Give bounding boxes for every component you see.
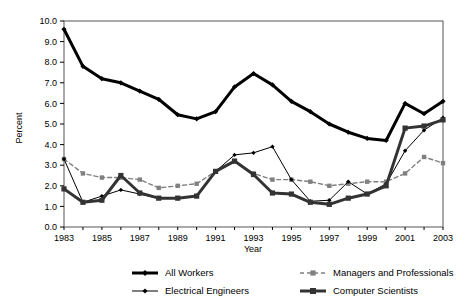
y-tick-label: 7.0 (44, 78, 57, 88)
data-point-marker (421, 123, 426, 128)
data-point-marker (156, 196, 161, 201)
x-tick-label: 1995 (281, 233, 301, 243)
legend-item[interactable]: Computer Scientists (300, 285, 418, 296)
data-point-marker (119, 188, 123, 192)
legend-label: Computer Scientists (333, 285, 418, 296)
y-tick-label: 4.0 (44, 140, 57, 150)
series-1 (61, 27, 445, 143)
data-point-marker (346, 196, 351, 201)
data-point-marker (251, 151, 255, 155)
data-point-marker (194, 194, 199, 199)
data-point-marker (176, 184, 180, 188)
data-point-marker (118, 173, 123, 178)
data-point-marker (61, 186, 66, 191)
y-tick-label: 1.0 (44, 202, 57, 212)
data-point-marker (310, 270, 315, 275)
data-point-marker (441, 161, 445, 165)
data-point-marker (157, 186, 161, 190)
y-tick-label: 3.0 (44, 160, 57, 170)
y-tick-label: 10.0 (39, 16, 57, 26)
y-tick-label: 2.0 (44, 181, 57, 191)
data-point-marker (310, 288, 316, 294)
data-point-marker (100, 175, 104, 179)
data-point-marker (251, 172, 256, 177)
x-tick-label: 1997 (319, 233, 339, 243)
x-tick-label: 1991 (206, 233, 226, 243)
data-point-marker (137, 190, 142, 195)
x-tick-label: 1985 (92, 233, 112, 243)
chart-container: 0.01.02.03.04.05.06.07.08.09.010.0 19831… (0, 0, 470, 307)
x-axis-label: Year (244, 244, 262, 254)
data-point-marker (232, 158, 237, 163)
series-3 (62, 116, 445, 205)
legend-label: Managers and Professionals (333, 267, 454, 278)
data-point-marker (194, 182, 198, 186)
legend-label: All Workers (165, 267, 214, 278)
y-tick-label: 6.0 (44, 99, 57, 109)
data-point-marker (99, 198, 104, 203)
plot-frame (64, 21, 443, 227)
line-chart: 0.01.02.03.04.05.06.07.08.09.010.0 19831… (0, 0, 470, 307)
legend-label: Electrical Engineers (165, 285, 249, 296)
x-tick-label: 1999 (357, 233, 377, 243)
x-tick-label: 1987 (130, 233, 150, 243)
data-point-marker (270, 190, 275, 195)
y-tick-label: 9.0 (44, 37, 57, 47)
legend-item[interactable]: All Workers (132, 267, 214, 278)
series-4 (61, 117, 445, 207)
data-point-marker (327, 202, 332, 207)
data-point-marker (308, 179, 312, 183)
data-point-marker (270, 177, 274, 181)
x-axis-ticks: 1983198519871989199119931995199719992001… (54, 227, 453, 243)
data-point-marker (213, 169, 218, 174)
data-point-marker (403, 171, 407, 175)
data-point-marker (81, 171, 85, 175)
chart-legend: All WorkersManagers and ProfessionalsEle… (132, 267, 454, 296)
x-tick-label: 1993 (243, 233, 263, 243)
y-tick-label: 5.0 (44, 119, 57, 129)
data-series-group (61, 27, 445, 207)
data-point-marker (327, 184, 331, 188)
data-point-marker (142, 288, 147, 293)
data-point-marker (384, 183, 389, 188)
x-tick-label: 2001 (395, 233, 415, 243)
data-point-marker (403, 126, 408, 131)
x-tick-label: 1989 (168, 233, 188, 243)
legend-item[interactable]: Managers and Professionals (300, 267, 454, 278)
data-point-marker (422, 155, 426, 159)
x-tick-label: 1983 (54, 233, 74, 243)
data-point-marker (308, 200, 313, 205)
data-point-marker (270, 144, 274, 148)
y-tick-label: 8.0 (44, 57, 57, 67)
data-point-marker (289, 191, 294, 196)
data-point-marker (142, 270, 148, 276)
data-point-marker (138, 177, 142, 181)
y-tick-label: 0.0 (44, 222, 57, 232)
y-axis-ticks: 0.01.02.03.04.05.06.07.08.09.010.0 (39, 16, 64, 232)
x-tick-label: 2003 (433, 233, 453, 243)
data-point-marker (175, 196, 180, 201)
y-axis-label: Percent (14, 112, 24, 144)
legend-item[interactable]: Electrical Engineers (132, 285, 249, 296)
plot-border (64, 21, 443, 227)
data-point-marker (80, 200, 85, 205)
data-point-marker (440, 117, 445, 122)
data-point-marker (365, 191, 370, 196)
data-point-marker (365, 179, 369, 183)
